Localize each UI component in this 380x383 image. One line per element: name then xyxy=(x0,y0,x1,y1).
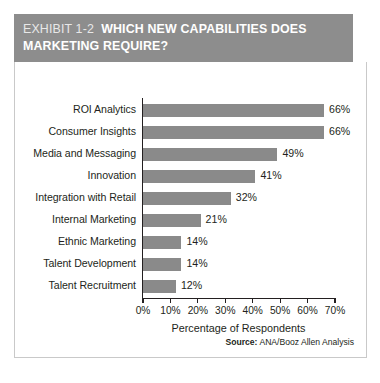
bar-row: Internal Marketing21% xyxy=(15,210,366,232)
bar-row: Integration with Retail32% xyxy=(15,188,366,210)
bar-row: ROI Analytics66% xyxy=(15,100,366,122)
bar-value-label: 14% xyxy=(186,235,207,247)
bar-chart-plot: ROI Analytics66%Consumer Insights66%Medi… xyxy=(15,62,366,357)
bar xyxy=(143,192,231,205)
bar xyxy=(143,148,277,161)
x-axis-tick xyxy=(307,298,308,303)
bar-category-label: Talent Recruitment xyxy=(15,279,136,291)
bar-value-label: 14% xyxy=(186,257,207,269)
bar-category-label: Integration with Retail xyxy=(15,191,136,203)
bar-category-label: ROI Analytics xyxy=(15,103,136,115)
x-axis-tick xyxy=(280,298,281,303)
bar xyxy=(143,170,255,183)
bar-category-label: Talent Development xyxy=(15,257,136,269)
bar-category-label: Innovation xyxy=(15,169,136,181)
page-title: EXHIBIT 1-2 WHICH NEW CAPABILITIES DOES … xyxy=(23,21,343,55)
bar-value-label: 32% xyxy=(236,191,257,203)
bar-value-label: 66% xyxy=(329,103,350,115)
x-axis-tick xyxy=(197,298,198,303)
bar-category-label: Internal Marketing xyxy=(15,213,136,225)
chart-frame: ROI Analytics66%Consumer Insights66%Medi… xyxy=(14,62,367,358)
bar-value-label: 66% xyxy=(329,125,350,137)
bar xyxy=(143,258,181,271)
exhibit-title-band: EXHIBIT 1-2 WHICH NEW CAPABILITIES DOES … xyxy=(14,14,353,62)
bar xyxy=(143,236,181,249)
source-label: Source: xyxy=(225,337,257,347)
bar-category-label: Media and Messaging xyxy=(15,147,136,159)
bar-row: Talent Recruitment12% xyxy=(15,276,366,298)
bar-row: Innovation41% xyxy=(15,166,366,188)
bar-value-label: 21% xyxy=(206,213,227,225)
x-axis-tick xyxy=(334,298,335,303)
bar-row: Media and Messaging49% xyxy=(15,144,366,166)
bar xyxy=(143,104,324,117)
exhibit-number: EXHIBIT 1-2 xyxy=(23,22,94,36)
x-axis-tick xyxy=(142,298,143,303)
bar-category-label: Ethnic Marketing xyxy=(15,235,136,247)
source-note: Source: ANA/Booz Allen Analysis xyxy=(225,337,354,347)
bar-value-label: 49% xyxy=(282,147,303,159)
bar-value-label: 41% xyxy=(260,169,281,181)
bar-row: Consumer Insights66% xyxy=(15,122,366,144)
x-axis-tick xyxy=(225,298,226,303)
source-value: ANA/Booz Allen Analysis xyxy=(259,337,354,347)
exhibit-chart: EXHIBIT 1-2 WHICH NEW CAPABILITIES DOES … xyxy=(14,14,367,358)
bar-category-label: Consumer Insights xyxy=(15,125,136,137)
bar xyxy=(143,126,324,139)
x-axis-tick xyxy=(252,298,253,303)
bar-value-label: 12% xyxy=(181,279,202,291)
bar-row: Talent Development14% xyxy=(15,254,366,276)
bar xyxy=(143,214,201,227)
x-axis-title: Percentage of Respondents xyxy=(142,322,335,334)
bar-row: Ethnic Marketing14% xyxy=(15,232,366,254)
x-axis-tick xyxy=(170,298,171,303)
bar xyxy=(143,280,176,293)
x-axis-tick-label: 70% xyxy=(318,305,352,316)
